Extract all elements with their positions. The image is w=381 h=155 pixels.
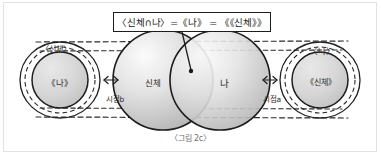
- left-outer-set-label: 〈신체〉: [22, 43, 90, 54]
- viewpoint-arrow-left: [104, 77, 118, 84]
- left-inner-set-label: 《나》: [24, 76, 96, 88]
- middle-left-circle-label: 신체: [125, 76, 181, 88]
- formula-text: 〈신체∩나〉=《나》 = 《《신체》》: [113, 15, 271, 29]
- viewpoint-a-label: 시점a: [252, 93, 292, 104]
- viewpoint-b-label: 시점b: [95, 93, 135, 104]
- middle-right-circle-label: 나: [196, 76, 252, 90]
- callout-endpoint-dot: [189, 69, 193, 73]
- right-inner-set-label: 《신체》: [285, 76, 357, 87]
- figure-2c: 〈신체∩나〉=《나》 = 《《신체》》 〈신체〉 《나》 신체 나 〈나〉 《신…: [0, 0, 381, 155]
- right-outer-set-label: 〈나〉: [294, 44, 350, 56]
- figure-caption: 〈그림 2c〉: [0, 132, 381, 143]
